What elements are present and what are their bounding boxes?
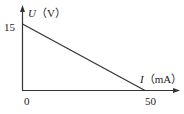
x-axis-unit: （mA）	[144, 73, 183, 85]
x-axis-arrow-icon	[173, 88, 180, 93]
y-axis-arrow-icon	[20, 5, 25, 12]
y-axis-var: U	[28, 7, 36, 19]
x-tick-50: 50	[145, 96, 156, 107]
data-line	[23, 24, 146, 91]
y-axis-unit: （V）	[36, 7, 66, 19]
y-tick-15: 15	[4, 22, 15, 33]
y-axis-label: U（V）	[28, 8, 66, 19]
x-tick-0: 0	[24, 96, 30, 107]
x-axis-label: I（mA）	[140, 74, 182, 85]
